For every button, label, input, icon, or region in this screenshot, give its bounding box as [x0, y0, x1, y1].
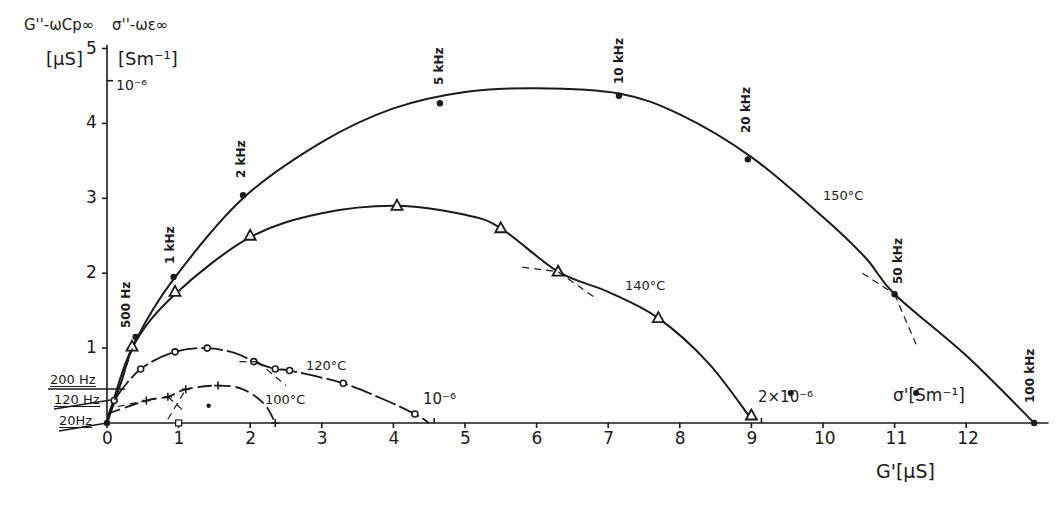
x-tick-6: 6 — [532, 430, 543, 447]
point-marker — [272, 366, 278, 372]
point-marker — [240, 192, 246, 198]
point-marker — [170, 274, 176, 280]
freq-label-1khz: 1 kHz — [163, 226, 177, 264]
point-marker — [132, 334, 138, 340]
point-marker — [745, 156, 751, 162]
point-marker — [412, 411, 418, 417]
freq-label-2khz: 2 kHz — [234, 140, 248, 178]
freq-label-5khz: 5 kHz — [432, 47, 446, 85]
point-marker — [111, 398, 117, 404]
curve-100c — [107, 386, 275, 423]
y-tick-4: 4 — [86, 114, 97, 131]
y-axis-title-right: σ''-ωε∞ — [112, 18, 168, 33]
y-tick-5: 5 — [86, 40, 97, 57]
y-axis-title-left: G''-ωCp∞ — [24, 18, 94, 33]
freq-label-20khz: 20 kHz — [739, 87, 753, 133]
curve-label-120c: 120°C — [306, 358, 346, 373]
freq-label-500hz: 500 Hz — [119, 282, 133, 328]
freq-label-200hz: 200 Hz — [50, 373, 96, 387]
point-marker — [287, 368, 293, 374]
freq-label-20hz: 20Hz — [59, 414, 92, 428]
x-tick-7: 7 — [603, 430, 614, 447]
point-marker — [1031, 420, 1037, 426]
x-tick-8: 8 — [675, 430, 686, 447]
x-tick-12: 12 — [957, 430, 979, 447]
x-secondary-mark-2: 2×10⁻⁶ — [758, 390, 813, 405]
x-secondary-mark-1: 10⁻⁶ — [423, 392, 456, 407]
y-axis-unit-left: [µS] — [46, 50, 83, 68]
point-marker — [340, 380, 346, 386]
point-marker — [437, 100, 443, 106]
x-tick-10: 10 — [814, 430, 836, 447]
x-axis-secondary-title: σ'[Sm⁻¹] — [893, 387, 965, 404]
curve-label-140c: 140°C — [625, 278, 665, 293]
curve-label-100c: 100°C — [265, 392, 305, 407]
point-marker — [172, 349, 178, 355]
x-tick-1: 1 — [174, 430, 185, 447]
point-marker — [653, 312, 664, 322]
freq-label-10khz: 10 kHz — [612, 38, 626, 84]
point-marker — [616, 92, 622, 98]
y-tick-3: 3 — [86, 189, 97, 206]
y-secondary-mark: 10⁻⁶ — [116, 78, 147, 92]
freq-label-100khz: 100 kHz — [1023, 349, 1037, 403]
point-marker — [138, 366, 144, 372]
x-tick-0: 0 — [102, 430, 113, 447]
freq-label-50khz: 50 kHz — [891, 238, 905, 284]
curve-label-150c: 150°C — [823, 188, 863, 203]
x-tick-9: 9 — [746, 430, 757, 447]
freq-label-120hz: 120 Hz — [54, 393, 100, 407]
curve-120c — [107, 348, 429, 423]
x-tick-2: 2 — [245, 430, 256, 447]
y-tick-1: 1 — [86, 339, 97, 356]
point-marker — [495, 222, 506, 232]
x-tick-11: 11 — [886, 430, 908, 447]
x-axis-title: G'[µS] — [876, 462, 935, 481]
point-marker — [204, 345, 210, 351]
y-tick-2: 2 — [86, 264, 97, 281]
x-tick-3: 3 — [317, 430, 328, 447]
y-axis-unit-right: [Sm⁻¹] — [118, 50, 178, 68]
x-tick-4: 4 — [388, 430, 399, 447]
x-tick-5: 5 — [460, 430, 471, 447]
